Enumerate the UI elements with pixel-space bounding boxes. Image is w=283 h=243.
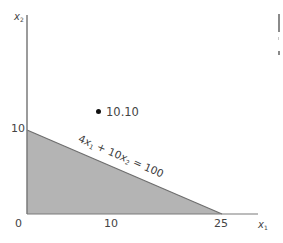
x-tick-25: 25 xyxy=(214,218,228,229)
x-axis-label: x1 xyxy=(258,220,268,231)
edge-mark-line xyxy=(278,14,280,32)
data-point-dot xyxy=(96,109,101,114)
x-tick-10: 10 xyxy=(104,218,118,229)
chart-canvas xyxy=(0,0,283,243)
y-axis-label: x2 xyxy=(14,12,24,23)
origin-label: 0 xyxy=(15,218,22,229)
x-axis-sub: 1 xyxy=(264,224,268,231)
data-point-label: 10.10 xyxy=(106,107,139,119)
edge-mark-tick xyxy=(278,51,280,55)
y-tick-10: 10 xyxy=(11,123,25,134)
edge-mark-dot xyxy=(278,37,279,40)
y-axis-sub: 2 xyxy=(20,16,24,23)
feasible-region-chart: x2 10 0 10 25 x1 10.10 4x1 + 10x2 = 100 xyxy=(0,0,283,243)
